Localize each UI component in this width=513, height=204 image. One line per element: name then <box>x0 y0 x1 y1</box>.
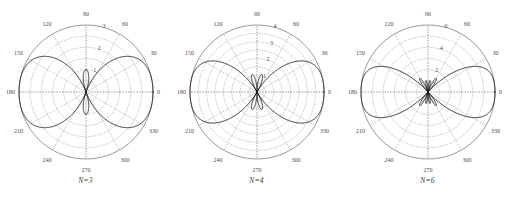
polar-pattern-figure: 0306090120150180210240270300330123 N=3 0… <box>0 0 513 204</box>
panel-caption-2: N=4 <box>171 176 342 185</box>
polar-plot-panel-2: 03060901201501802102402703003301234 N=4 <box>171 0 342 204</box>
polar-angle-label: 240 <box>43 157 52 163</box>
polar-angle-label: 120 <box>385 21 394 27</box>
polar-angle-label: 150 <box>356 50 365 56</box>
polar-angle-label: 90 <box>254 11 260 17</box>
polar-grid-spoke <box>257 92 291 150</box>
polar-radial-label: 2 <box>435 67 438 73</box>
polar-angle-label: 240 <box>214 157 223 163</box>
polar-angle-label: 60 <box>464 21 470 27</box>
polar-radial-label: 3 <box>270 40 273 46</box>
polar-radial-label: 1 <box>93 67 96 73</box>
polar-angle-label: 210 <box>356 128 365 134</box>
polar-angle-label: 0 <box>499 89 502 95</box>
polar-radial-label: 4 <box>273 23 276 29</box>
polar-radial-label: 3 <box>102 23 105 29</box>
polar-plot-3: 0306090120150180210240270300330246 <box>342 0 513 180</box>
polar-radial-label: 2 <box>266 56 269 62</box>
polar-angle-label: 330 <box>149 128 158 134</box>
polar-angle-label: 240 <box>385 157 394 163</box>
polar-angle-label: 90 <box>83 11 89 17</box>
polar-radial-label: 6 <box>444 23 447 29</box>
polar-radial-label: 1 <box>263 73 266 79</box>
polar-radial-label: 4 <box>440 45 443 51</box>
polar-angle-label: 30 <box>322 50 328 56</box>
polar-angle-label: 270 <box>82 167 91 173</box>
polar-angle-label: 180 <box>6 89 15 95</box>
polar-pattern-curve <box>19 56 153 127</box>
polar-angle-label: 150 <box>14 50 23 56</box>
polar-angle-label: 180 <box>348 89 357 95</box>
polar-angle-label: 270 <box>253 167 262 173</box>
polar-angle-label: 150 <box>185 50 194 56</box>
polar-angle-label: 270 <box>424 167 433 173</box>
panel-caption-1: N=3 <box>0 176 171 185</box>
polar-angle-label: 300 <box>121 157 130 163</box>
polar-angle-label: 330 <box>491 128 500 134</box>
polar-angle-label: 120 <box>43 21 52 27</box>
polar-grid-spoke <box>428 34 462 92</box>
polar-angle-label: 330 <box>320 128 329 134</box>
polar-angle-label: 180 <box>177 89 186 95</box>
polar-angle-label: 120 <box>214 21 223 27</box>
polar-angle-label: 210 <box>14 128 23 134</box>
polar-angle-label: 0 <box>328 89 331 95</box>
polar-angle-label: 300 <box>463 157 472 163</box>
polar-angle-label: 300 <box>292 157 301 163</box>
polar-grid-spoke <box>428 92 462 150</box>
polar-angle-label: 210 <box>185 128 194 134</box>
polar-angle-label: 90 <box>425 11 431 17</box>
polar-radial-label: 2 <box>98 45 101 51</box>
polar-pattern-curve <box>190 61 324 123</box>
polar-plot-panel-1: 0306090120150180210240270300330123 N=3 <box>0 0 171 204</box>
polar-angle-label: 30 <box>151 50 157 56</box>
polar-angle-label: 0 <box>157 89 160 95</box>
polar-plot-2: 03060901201501802102402703003301234 <box>171 0 342 180</box>
polar-grid-spoke <box>86 34 120 92</box>
panel-caption-3: N=6 <box>342 176 513 185</box>
polar-angle-label: 30 <box>493 50 499 56</box>
polar-plot-panel-3: 0306090120150180210240270300330246 N=6 <box>342 0 513 204</box>
polar-angle-label: 60 <box>293 21 299 27</box>
polar-grid-spoke <box>86 92 120 150</box>
polar-angle-label: 60 <box>122 21 128 27</box>
polar-plot-1: 0306090120150180210240270300330123 <box>0 0 171 180</box>
polar-grid-spoke <box>257 34 291 92</box>
